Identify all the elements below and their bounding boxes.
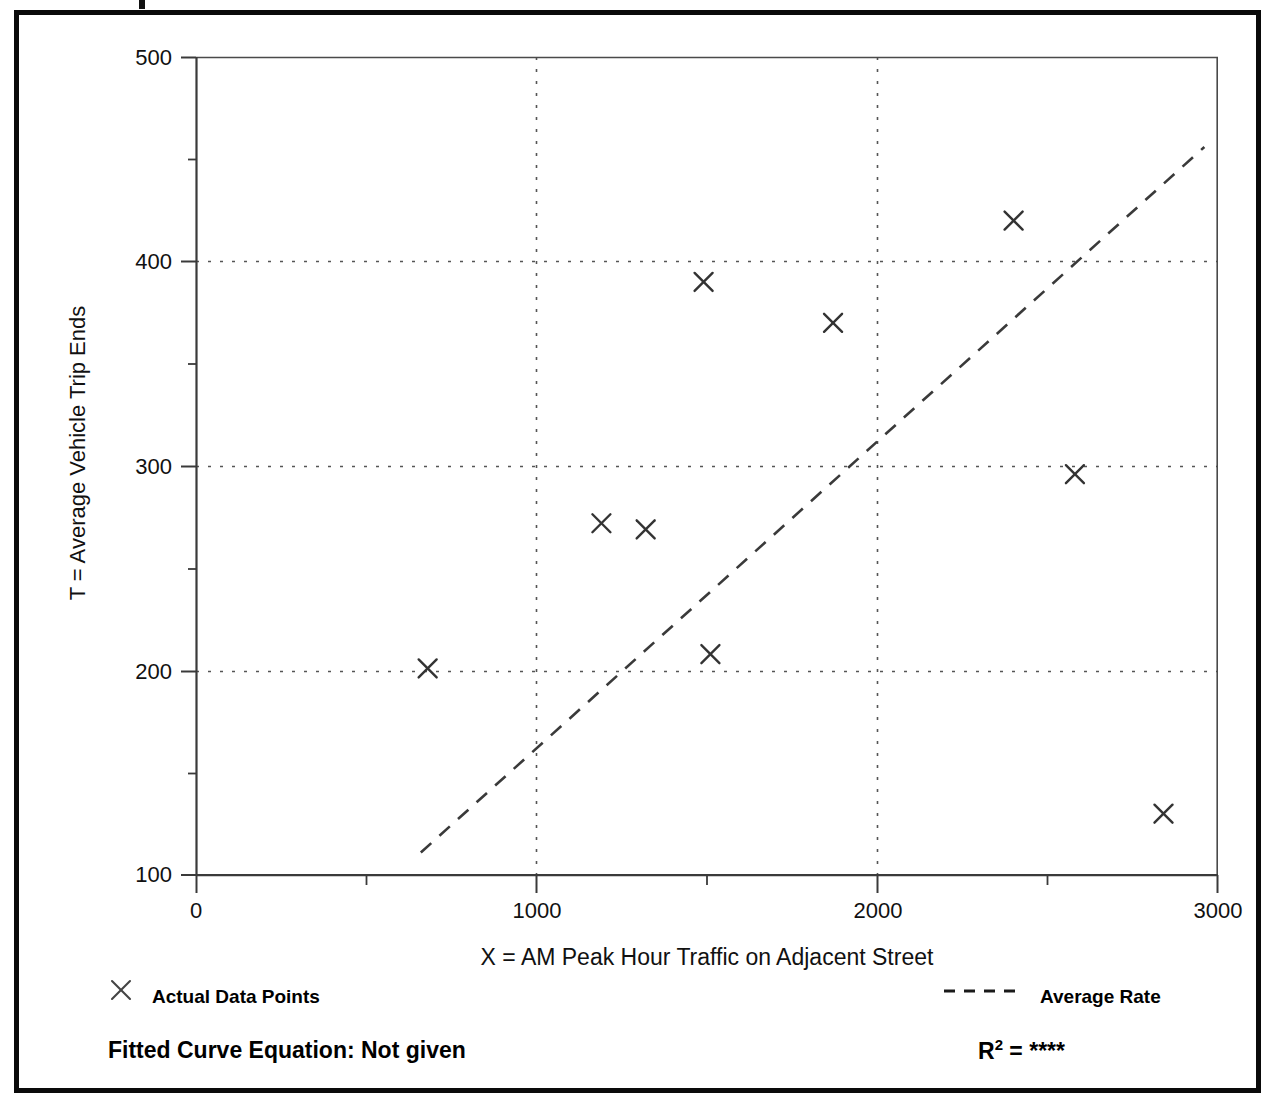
x-tick-label-0: 0 [156,898,236,924]
legend-label-average-rate: Average Rate [1040,986,1161,1008]
x-tick-label-3000: 3000 [1173,898,1263,924]
y-tick-label-400: 400 [100,249,172,275]
y-tick-label-200: 200 [100,659,172,685]
figure-page: 500 400 300 200 100 0 1000 2000 3000 T =… [0,0,1275,1105]
x-tick-label-1000: 1000 [492,898,582,924]
r-squared-symbol: R [978,1038,995,1064]
r-squared-exponent: 2 [995,1036,1003,1053]
scatter-chart [0,0,1275,1105]
y-axis-title: T = Average Vehicle Trip Ends [65,243,91,663]
x-minor-ticks [367,875,1048,885]
y-tick-label-100: 100 [100,862,172,888]
fitted-curve-equation: Fitted Curve Equation: Not given [108,1037,466,1064]
y-major-ticks [181,58,196,876]
y-tick-label-300: 300 [100,454,172,480]
r-squared-annotation: R2 = **** [978,1036,1065,1065]
x-tick-label-2000: 2000 [833,898,923,924]
r-squared-equals: = [1003,1038,1029,1064]
legend-label-actual-data-points: Actual Data Points [152,986,320,1008]
x-axis-title: X = AM Peak Hour Traffic on Adjacent Str… [196,944,1218,971]
legend-x-marker-icon [112,981,130,999]
plot-background [196,57,1218,875]
r-squared-value: **** [1029,1038,1065,1064]
y-tick-label-500: 500 [100,45,172,71]
